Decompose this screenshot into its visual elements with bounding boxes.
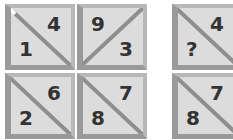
tile-number-top: 7	[210, 83, 224, 103]
tile-number-top: 4	[47, 14, 61, 34]
tile-number-top: 9	[91, 14, 105, 34]
answer-tile-2: 7 8	[172, 73, 233, 139]
answer-tile-1: 4 ?	[172, 4, 233, 70]
tile-number-top: 7	[119, 83, 133, 103]
tile-number-bottom: 8	[91, 108, 105, 128]
puzzle-tile-2: 9 3	[77, 4, 147, 70]
tile-number-top: 4	[210, 14, 224, 34]
diagonal-line-icon	[77, 4, 147, 70]
puzzle-tile-1: 4 1	[5, 4, 75, 70]
diagonal-line-icon	[5, 73, 75, 139]
puzzle-tile-4: 7 8	[77, 73, 147, 139]
tile-number-missing: ?	[186, 39, 198, 59]
tile-number-bottom: 8	[186, 108, 200, 128]
tile-number-bottom: 1	[19, 39, 33, 59]
tile-number-bottom: 3	[119, 39, 133, 59]
tile-number-bottom: 2	[19, 108, 33, 128]
puzzle-tile-3: 6 2	[5, 73, 75, 139]
diagonal-line-icon	[5, 4, 75, 70]
tile-number-top: 6	[47, 83, 61, 103]
diagonal-line-icon	[77, 73, 147, 139]
